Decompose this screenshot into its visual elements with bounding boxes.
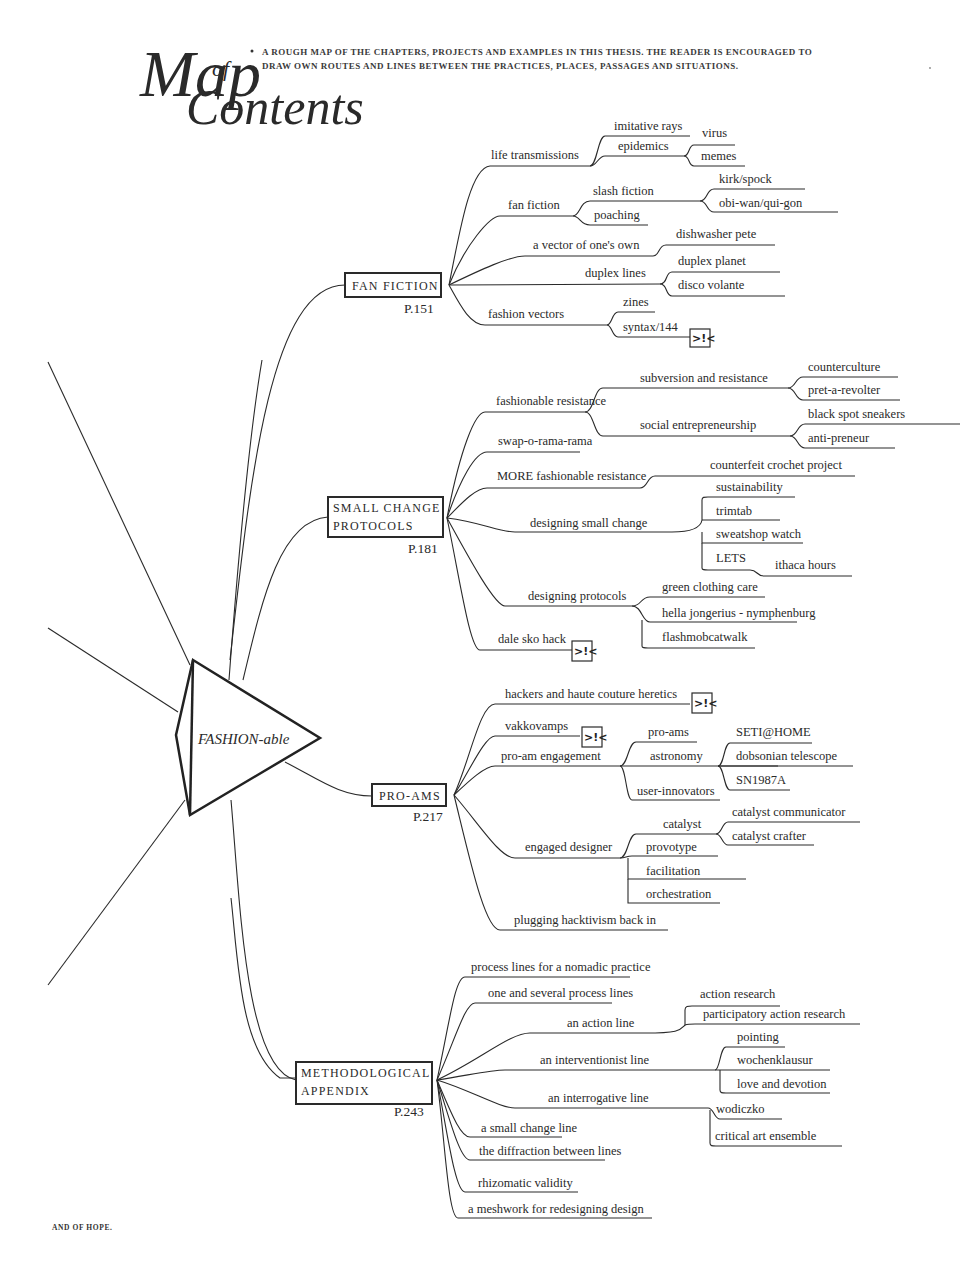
branch-zines: zines <box>623 295 649 309</box>
branch-facilitation: facilitation <box>646 864 701 878</box>
branch-diffraction: the diffraction between lines <box>479 1144 622 1158</box>
crossref-icon[interactable]: >!< <box>572 641 597 661</box>
branch-fan-fiction: fan fiction <box>508 198 560 212</box>
branch-catalyst-crafter: catalyst crafter <box>732 829 807 843</box>
branch-astronomy: astronomy <box>650 749 704 763</box>
chapter-connectors <box>230 285 372 1080</box>
branch-trimtab: trimtab <box>716 504 752 518</box>
branch-ithaca-hours: ithaca hours <box>775 558 836 572</box>
branch-memes: memes <box>701 149 737 163</box>
branch-designing-small-change: designing small change <box>530 516 648 530</box>
branch-action-line: an action line <box>567 1016 635 1030</box>
branch-disco-volante: disco volante <box>678 278 745 292</box>
chapter-title-line1: METHODOLOGICAL <box>301 1066 430 1080</box>
branch-epidemics: epidemics <box>618 139 669 153</box>
branch-critical-art-ensemble: critical art ensemble <box>715 1129 817 1143</box>
intro-line-2: DRAW OWN ROUTES AND LINES BETWEEN THE PR… <box>262 61 738 71</box>
branch-process-lines: process lines for a nomadic practice <box>471 960 651 974</box>
intro-line-1: A ROUGH MAP OF THE CHAPTERS, PROJECTS AN… <box>262 47 812 57</box>
svg-text:>!<: >!< <box>584 731 607 744</box>
branch-subversion: subversion and resistance <box>640 371 768 385</box>
branch-pointing: pointing <box>737 1030 779 1044</box>
branch-hackers-haute-couture: hackers and haute couture heretics <box>505 687 677 701</box>
branch-pro-ams: pro-ams <box>648 725 689 739</box>
svg-text:>!<: >!< <box>694 697 717 710</box>
branch-wodiczko: wodiczko <box>716 1102 765 1116</box>
branch-designing-protocols: designing protocols <box>528 589 626 603</box>
branch-fashion-vectors: fashion vectors <box>488 307 564 321</box>
title-contents: Contents <box>186 79 364 135</box>
branch-pro-am-engagement: pro-am engagement <box>501 749 601 763</box>
branch-swap-o-rama-rama: swap-o-rama-rama <box>498 434 593 448</box>
center-label: FASHION-able <box>197 731 290 747</box>
branch-counterculture: counterculture <box>808 360 881 374</box>
branch-virus: virus <box>702 126 727 140</box>
branch-dobsonian-telescope: dobsonian telescope <box>736 749 837 763</box>
page-number: P.243 <box>394 1104 424 1119</box>
branch-poaching: poaching <box>594 208 641 222</box>
branch-duplex-lines: duplex lines <box>585 266 646 280</box>
title-of: of <box>212 56 232 81</box>
branch-catalyst-communicator: catalyst communicator <box>732 805 846 819</box>
branch-black-spot-sneakers: black spot sneakers <box>808 407 905 421</box>
branch-dishwasher-pete: dishwasher pete <box>676 227 757 241</box>
branch-sustainability: sustainability <box>716 480 783 494</box>
crossref-icon[interactable]: >!< <box>582 727 607 747</box>
page-number: P.151 <box>404 301 434 316</box>
branch-seti-at-home: SETI@HOME <box>736 725 811 739</box>
branch-lets: LETS <box>716 551 746 565</box>
footer-text: AND OF HOPE. <box>52 1223 112 1232</box>
branch-wochenklausur: wochenklausur <box>737 1053 814 1067</box>
page-number: P.181 <box>408 541 438 556</box>
page-number: P.217 <box>413 809 443 824</box>
branch-dale-sko-hack: dale sko hack <box>498 632 567 646</box>
branch-life-transmissions: life transmissions <box>491 148 579 162</box>
branch-provotype: provotype <box>646 840 697 854</box>
chapter-fan-fiction[interactable]: FAN FICTION P.151 life transmissions imi… <box>345 119 838 347</box>
chapter-small-change[interactable]: SMALL CHANGE PROTOCOLS P.181 fashionable… <box>328 360 960 661</box>
branch-interventionist-line: an interventionist line <box>540 1053 649 1067</box>
branch-engaged-designer: engaged designer <box>525 840 613 854</box>
branch-meshwork: a meshwork for redesigning design <box>468 1202 644 1216</box>
branch-syntax-144: syntax/144 <box>623 320 679 334</box>
center-node[interactable]: FASHION-able <box>176 660 320 815</box>
branch-fashionable-resistance: fashionable resistance <box>496 394 606 408</box>
branch-social-entrepreneurship: social entrepreneurship <box>640 418 756 432</box>
branch-kirk-spock: kirk/spock <box>719 172 773 186</box>
branch-love-and-devotion: love and devotion <box>737 1077 827 1091</box>
chapter-pro-ams[interactable]: PRO-AMS P.217 hackers and haute couture … <box>372 687 860 930</box>
chapter-title-line2: PROTOCOLS <box>333 519 414 533</box>
branch-user-innovators: user-innovators <box>637 784 715 798</box>
branch-counterfeit-crochet: counterfeit crochet project <box>710 458 842 472</box>
chapter-title: FAN FICTION <box>352 279 439 293</box>
chapter-title-line1: SMALL CHANGE <box>333 501 441 515</box>
bullet-icon <box>251 50 254 53</box>
branch-catalyst: catalyst <box>663 817 702 831</box>
branch-duplex-planet: duplex planet <box>678 254 746 268</box>
branch-more-fashionable-resistance: MORE fashionable resistance <box>497 469 647 483</box>
branch-flashmobcatwalk: flashmobcatwalk <box>662 630 748 644</box>
svg-text:>!<: >!< <box>692 332 715 345</box>
branch-hella-jongerius: hella jongerius - nymphenburg <box>662 606 816 620</box>
branch-sweatshop-watch: sweatshop watch <box>716 527 802 541</box>
branch-participatory-action-research: participatory action research <box>703 1007 846 1021</box>
map-of-contents-diagram: Map of Contents A ROUGH MAP OF THE CHAPT… <box>0 0 966 1269</box>
branch-interrogative-line: an interrogative line <box>548 1091 649 1105</box>
branch-obi-wan: obi-wan/qui-gon <box>719 196 803 210</box>
branch-slash-fiction: slash fiction <box>593 184 655 198</box>
chapter-title: PRO-AMS <box>379 789 441 803</box>
branch-orchestration: orchestration <box>646 887 712 901</box>
branch-vakkovamps: vakkovamps <box>505 719 568 733</box>
branch-plugging-hacktivism: plugging hacktivism back in <box>514 913 657 927</box>
branch-imitative-rays: imitative rays <box>614 119 683 133</box>
crossref-icon[interactable]: >!< <box>692 693 717 713</box>
crossref-icon[interactable]: >!< <box>690 329 715 347</box>
branch-anti-preneur: anti-preneur <box>808 431 870 445</box>
chapter-appendix[interactable]: METHODOLOGICAL APPENDIX P.243 process li… <box>296 960 860 1218</box>
branch-small-change-line: a small change line <box>481 1121 578 1135</box>
branch-green-clothing-care: green clothing care <box>662 580 758 594</box>
branch-vector: a vector of one's own <box>533 238 640 252</box>
branch-one-several: one and several process lines <box>488 986 633 1000</box>
svg-text:>!<: >!< <box>574 645 597 658</box>
chapter-title-line2: APPENDIX <box>301 1084 370 1098</box>
